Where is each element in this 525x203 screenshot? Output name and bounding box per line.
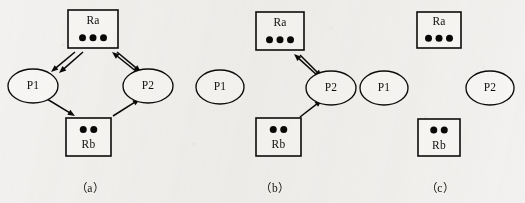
resource-unit-dot: [446, 35, 453, 42]
resource-allocation-graph-figure: RaP1P2Rb（a）RaP1P2Rb（b）RaP1P2Rb（c）: [0, 0, 525, 203]
resource-unit-dot: [79, 34, 86, 41]
process-node-P1: P1: [196, 70, 244, 104]
process-label: P1: [27, 79, 40, 91]
process-node-P2: P2: [123, 69, 173, 103]
resource-node-Rb: Rb: [418, 119, 460, 156]
edge-P2-to-Ra: [294, 54, 318, 76]
resource-unit-dot: [425, 35, 432, 42]
resource-unit-dot: [287, 36, 294, 43]
diagram-panel-b: RaP1P2Rb（b）: [190, 0, 360, 203]
process-node-P2: P2: [466, 71, 514, 105]
resource-unit-dot: [430, 127, 437, 134]
panel-caption-b: （b）: [190, 179, 360, 195]
panel-caption-a: （a）: [0, 179, 180, 195]
diagram-panel-a: RaP1P2Rb（a）: [0, 0, 180, 203]
resource-unit-dot: [80, 126, 87, 133]
resource-node-Rb: Rb: [66, 118, 111, 156]
panel-canvas-a: RaP1P2Rb: [0, 0, 180, 175]
edge-Ra-to-P2: [117, 52, 141, 72]
panel-caption-c: （c）: [355, 179, 525, 195]
diagram-panel-c: RaP1P2Rb（c）: [355, 0, 525, 203]
resource-label: Ra: [273, 16, 286, 28]
resource-unit-dot: [100, 34, 107, 41]
edge-shaft: [300, 55, 318, 73]
edge-P2-to-Ra: [112, 52, 137, 72]
panel-canvas-b: RaP1P2Rb: [190, 0, 360, 175]
process-label: P2: [325, 81, 338, 93]
resource-node-Rb: Rb: [256, 118, 301, 156]
resource-unit-dot: [280, 126, 287, 133]
resource-node-Ra: Ra: [68, 10, 118, 48]
edge-shaft: [117, 52, 136, 68]
process-node-P1: P1: [8, 69, 58, 103]
resource-label: Rb: [82, 138, 96, 150]
process-node-P2: P2: [306, 71, 356, 105]
arrowhead-icon: [67, 110, 75, 116]
edge-shaft: [113, 102, 135, 116]
resource-unit-dot: [90, 126, 97, 133]
resource-label: Ra: [86, 14, 99, 26]
process-label: P2: [484, 81, 497, 93]
edge-shaft: [300, 104, 317, 117]
resource-node-Ra: Ra: [417, 12, 461, 48]
resource-unit-dot: [277, 36, 284, 43]
process-label: P2: [142, 79, 155, 91]
resource-unit-dot: [270, 126, 277, 133]
resource-unit-dot: [90, 34, 97, 41]
edge-shaft: [298, 58, 318, 76]
panel-canvas-c: RaP1P2Rb: [355, 0, 525, 175]
process-label: P1: [214, 80, 227, 92]
edge-shaft: [47, 99, 70, 113]
resource-unit-dot: [266, 36, 273, 43]
resource-unit-dot: [436, 35, 443, 42]
resource-node-Ra: Ra: [256, 12, 304, 50]
process-node-P1: P1: [360, 71, 408, 105]
process-label: P1: [378, 81, 391, 93]
resource-label: Rb: [432, 139, 446, 151]
resource-label: Ra: [432, 15, 445, 27]
edge-P1-to-Rb: [47, 99, 75, 116]
resource-unit-dot: [441, 127, 448, 134]
edge-shaft: [64, 52, 83, 69]
edge-shaft: [56, 52, 75, 68]
resource-label: Rb: [272, 138, 286, 150]
